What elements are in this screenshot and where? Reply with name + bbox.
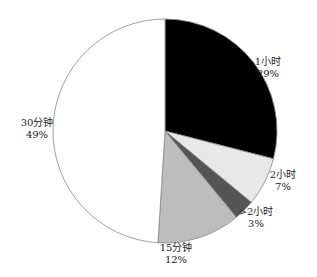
- pie-slice: [53, 19, 165, 243]
- slice-name: 2小时: [270, 169, 296, 180]
- slice-label-30min: 30分钟49%: [21, 116, 54, 140]
- slice-pct: 29%: [257, 68, 279, 79]
- slice-name: 15分钟: [160, 241, 193, 253]
- slice-pct: 49%: [26, 129, 48, 140]
- slice-pct: 7%: [275, 181, 291, 192]
- slice-label-over-2h: >2小时3%: [239, 206, 274, 229]
- slice-label-15min: 15分钟12%: [160, 241, 193, 265]
- slice-label-2h: 2小时7%: [270, 169, 296, 192]
- slice-name: >2小时: [239, 206, 274, 217]
- slice-name: 1小时: [255, 56, 281, 67]
- slice-name: 30分钟: [21, 116, 54, 128]
- slice-pct: 3%: [248, 218, 264, 229]
- slice-pct: 12%: [165, 254, 187, 265]
- slice-label-1h: 1小时29%: [255, 56, 281, 79]
- pie-chart: 1小时29% 2小时7% >2小时3% 15分钟12% 30分钟49%: [0, 0, 317, 277]
